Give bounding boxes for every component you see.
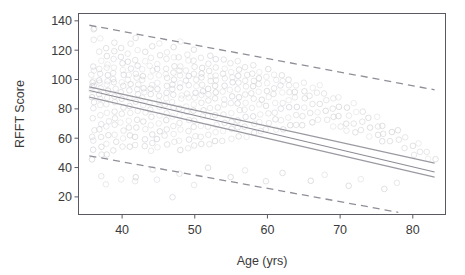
scatter-point <box>411 152 417 158</box>
scatter-point <box>402 145 408 151</box>
scatter-point <box>236 94 242 100</box>
scatter-point <box>142 49 148 55</box>
scatter-point <box>256 75 262 81</box>
scatter-point <box>264 80 270 86</box>
scatter-point <box>149 132 155 138</box>
scatter-point <box>263 178 269 184</box>
scatter-point <box>242 92 248 98</box>
scatter-point <box>113 139 119 145</box>
scatter-point <box>266 111 272 117</box>
scatter-point <box>199 82 205 88</box>
scatter-point <box>132 57 138 63</box>
y-tick-label: 120 <box>51 44 72 58</box>
scatter-point <box>103 45 109 51</box>
scatter-point <box>266 120 272 126</box>
prediction-interval-upper <box>89 25 434 90</box>
scatter-point <box>292 89 298 95</box>
scatter-point <box>213 65 219 71</box>
scatter-point <box>294 104 300 110</box>
scatter-point <box>149 43 155 49</box>
scatter-point <box>155 80 161 86</box>
scatter-point <box>164 127 170 133</box>
scatter-point <box>213 129 219 135</box>
scatter-point <box>199 92 205 98</box>
scatter-point <box>154 136 160 142</box>
scatter-point <box>162 133 168 139</box>
x-tick-label: 40 <box>115 223 129 237</box>
scatter-point <box>191 143 197 149</box>
scatter-point <box>235 58 241 64</box>
scatter-point <box>206 61 212 67</box>
scatter-point <box>219 138 225 144</box>
scatter-point <box>112 122 118 128</box>
scatter-point <box>286 104 292 110</box>
scatter-point <box>228 60 234 66</box>
scatter-point <box>112 109 118 115</box>
scatter-point <box>251 62 257 68</box>
scatter-point <box>118 177 124 183</box>
y-tick-marks <box>75 21 79 197</box>
scatter-point <box>192 64 198 70</box>
scatter-point <box>315 110 321 116</box>
scatter-point <box>387 138 393 144</box>
scatter-point <box>199 100 205 106</box>
scatter-point <box>206 92 212 98</box>
scatter-point <box>343 121 349 127</box>
scatter-point <box>220 89 226 95</box>
scatter-point <box>207 53 213 59</box>
scatter-point <box>249 90 255 96</box>
scatter-point <box>360 109 366 115</box>
scatter-point <box>324 117 330 123</box>
scatter-point <box>140 77 146 83</box>
scatter-point <box>91 105 97 111</box>
scatter-point <box>142 143 148 149</box>
scatter-point <box>148 74 154 80</box>
scatter-point <box>416 141 422 147</box>
scatter-point <box>104 53 110 59</box>
scatter-point <box>280 100 286 106</box>
scatter-point <box>98 112 104 118</box>
scatter-point <box>134 75 140 81</box>
scatter-point <box>379 138 385 144</box>
scatter-point <box>198 55 204 61</box>
scatter-point <box>235 73 241 79</box>
scatter-point <box>220 128 226 134</box>
scatter-point <box>207 105 213 111</box>
scatter-point <box>287 122 293 128</box>
scatter-point <box>104 110 110 116</box>
scatter-point <box>178 147 184 153</box>
scatter-point <box>280 170 286 176</box>
scatter-point <box>89 157 95 163</box>
scatter-point <box>198 123 204 129</box>
scatter-point <box>228 100 234 106</box>
scatter-point <box>169 99 175 105</box>
scatter-point <box>402 135 408 141</box>
scatter-point <box>243 114 249 120</box>
scatter-point <box>164 56 170 62</box>
scatter-point <box>139 67 145 73</box>
scatter-point <box>433 156 439 162</box>
scatter-point <box>186 137 192 143</box>
scatter-point <box>394 180 400 186</box>
scatter-point <box>344 128 350 134</box>
scatter-point <box>112 48 118 54</box>
scatter-point <box>170 194 176 200</box>
x-tick-label: 60 <box>260 223 274 237</box>
scatter-point <box>212 96 218 102</box>
scatter-point <box>249 71 255 77</box>
scatter-point <box>128 81 134 87</box>
scatter-point <box>257 112 263 118</box>
scatter-point <box>90 115 96 121</box>
scatter-point <box>273 77 279 83</box>
scatter-point <box>194 83 200 89</box>
scatter-point <box>91 68 97 74</box>
scatter-point <box>148 123 154 129</box>
scatter-point <box>212 138 218 144</box>
scatter-point <box>133 174 139 180</box>
scatter-point <box>199 65 205 71</box>
scatter-point <box>132 134 138 140</box>
scatter-point <box>171 131 177 137</box>
scatter-point <box>338 124 344 130</box>
scatter-point <box>91 37 97 43</box>
scatter-point <box>293 112 299 118</box>
